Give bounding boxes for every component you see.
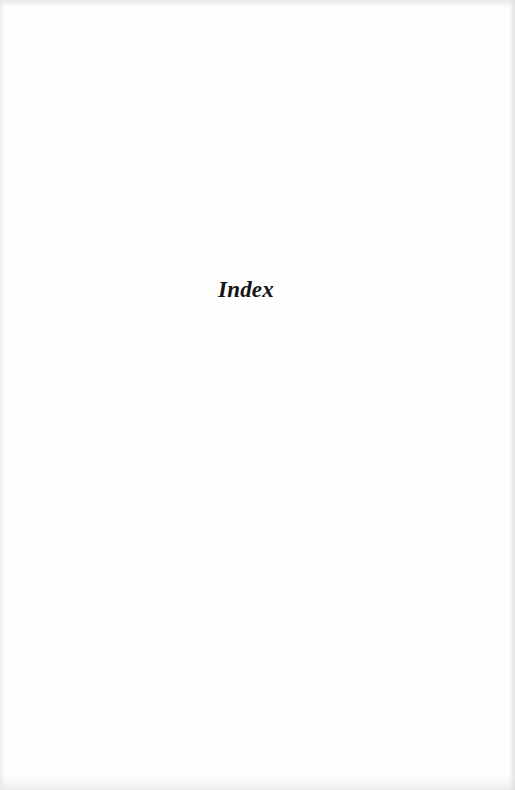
document-page: Index <box>0 0 515 790</box>
page-edge-right <box>509 0 515 790</box>
page-title: Index <box>218 276 274 304</box>
page-edge-bottom <box>0 776 515 790</box>
page-edge-top <box>0 0 515 8</box>
page-edge-left <box>0 0 4 790</box>
